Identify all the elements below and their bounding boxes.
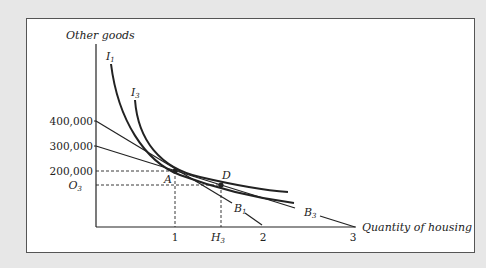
x-axis-label: Quantity of housing: [362, 221, 472, 234]
label-B3: B3: [303, 206, 317, 220]
y-tick-300000: 300,000: [50, 140, 93, 152]
budget-line-B1: [96, 121, 232, 203]
label-I3: I3: [130, 86, 140, 100]
label-A: A: [163, 173, 172, 186]
indifference-curve-I1: [111, 64, 294, 203]
x-tick-H3: H3: [210, 231, 226, 245]
indifference-curve-diagram: Other goods Quantity of housing 400,000 …: [0, 0, 486, 268]
y-tick-400000: 400,000: [50, 115, 93, 127]
label-D: D: [221, 169, 231, 182]
x-tick-3: 3: [350, 231, 357, 243]
x-tick-2: 2: [260, 231, 267, 243]
label-I1: I1: [105, 50, 115, 64]
y-tick-O3: O3: [69, 179, 83, 193]
y-tick-200000: 200,000: [50, 165, 93, 177]
point-D: [218, 182, 223, 187]
indifference-curve-I3: [135, 100, 288, 192]
point-A: [172, 168, 177, 173]
x-tick-1: 1: [172, 231, 179, 243]
label-B1: B1: [233, 202, 247, 216]
y-axis-label: Other goods: [66, 29, 135, 42]
